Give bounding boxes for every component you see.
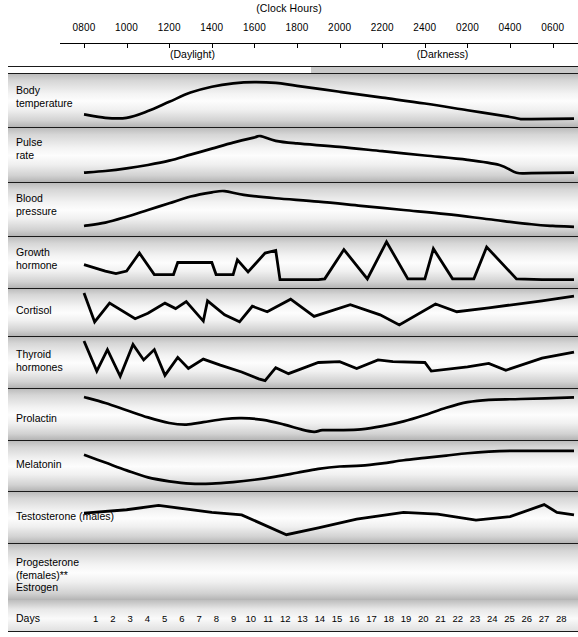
row-label-5: Thyroid hormones	[16, 348, 63, 373]
curve-layer	[0, 66, 578, 614]
row-label-0: Body temperature	[16, 84, 73, 109]
row-label-1: Pulse rate	[16, 136, 42, 161]
day-number: 7	[196, 613, 201, 624]
hour-tick-label: 2400	[413, 22, 436, 33]
hour-tick-mark	[382, 43, 383, 48]
curve-testosterone-males-	[84, 505, 574, 535]
curve-melatonin	[84, 451, 574, 484]
day-number: 11	[263, 613, 273, 624]
curve-cortisol	[84, 293, 574, 325]
curve-growth-hormone	[84, 242, 574, 280]
hour-tick-label: 1400	[200, 22, 223, 33]
hour-tick-label: 1000	[115, 22, 138, 33]
day-number: 27	[539, 613, 550, 624]
row-label-7: Melatonin	[16, 458, 62, 471]
hour-tick-mark	[297, 43, 298, 48]
day-number: 6	[179, 613, 184, 624]
row-label-3: Growth hormone	[16, 246, 57, 271]
day-number: 24	[487, 613, 498, 624]
clock-hours-title: (Clock Hours)	[0, 2, 578, 14]
hour-tick-label: 0400	[499, 22, 522, 33]
hour-tick-mark	[254, 43, 255, 48]
row-label-4: Cortisol	[16, 304, 52, 317]
day-number: 4	[145, 613, 150, 624]
row-label-2: Blood pressure	[16, 192, 57, 217]
row-label-9: Progesterone (females)**	[16, 556, 79, 581]
day-number: 16	[349, 613, 360, 624]
row-label-8: Testosterone (males)	[16, 510, 114, 523]
day-number: 18	[384, 613, 395, 624]
hour-tick-mark	[340, 43, 341, 48]
row-label-6: Prolactin	[16, 412, 57, 425]
day-number: 3	[127, 613, 132, 624]
hour-tick-label: 1800	[286, 22, 309, 33]
day-number: 23	[470, 613, 481, 624]
curve-blood-pressure	[84, 191, 574, 227]
axis-line	[60, 43, 578, 44]
hour-tick-label: 1200	[158, 22, 181, 33]
day-number: 28	[556, 613, 567, 624]
day-number: 19	[401, 613, 412, 624]
daylight-label: (Daylight)	[170, 48, 215, 60]
day-number: 12	[280, 613, 291, 624]
day-number: 22	[453, 613, 464, 624]
day-number: 9	[231, 613, 236, 624]
hour-tick-mark	[127, 43, 128, 48]
circadian-rhythm-figure: (Clock Hours) 08001000120014001600180020…	[0, 0, 578, 637]
curve-pulse-rate	[84, 136, 574, 173]
plot-area: Body temperaturePulse rateBlood pressure…	[0, 66, 578, 614]
hour-tick-label: 2000	[328, 22, 351, 33]
curve-body-temperature	[84, 82, 574, 119]
row-label-10: Estrogen	[16, 581, 58, 594]
day-number: 15	[332, 613, 343, 624]
hour-tick-label: 2200	[371, 22, 394, 33]
day-number: 17	[366, 613, 377, 624]
day-number: 20	[418, 613, 429, 624]
curve-thyroid-hormones	[84, 341, 574, 381]
hour-tick-mark	[553, 43, 554, 48]
day-number: 1	[93, 613, 98, 624]
hour-tick-label: 0200	[456, 22, 479, 33]
clock-hours-axis: 0800100012001400160018002000220024000200…	[0, 22, 578, 67]
day-number: 10	[246, 613, 257, 624]
day-number: 14	[315, 613, 326, 624]
day-number: 5	[162, 613, 167, 624]
curve-prolactin	[84, 397, 574, 432]
hour-tick-label: 1600	[243, 22, 266, 33]
hour-tick-mark	[84, 43, 85, 48]
darkness-label: (Darkness)	[417, 48, 468, 60]
day-number: 26	[522, 613, 533, 624]
day-number: 21	[435, 613, 446, 624]
figure-bottom-border	[8, 631, 578, 632]
day-number: 13	[297, 613, 308, 624]
hour-tick-label: 0600	[541, 22, 564, 33]
day-number: 2	[110, 613, 115, 624]
hour-tick-label: 0800	[72, 22, 95, 33]
day-number: 8	[214, 613, 219, 624]
hour-tick-mark	[510, 43, 511, 48]
day-number: 25	[504, 613, 515, 624]
